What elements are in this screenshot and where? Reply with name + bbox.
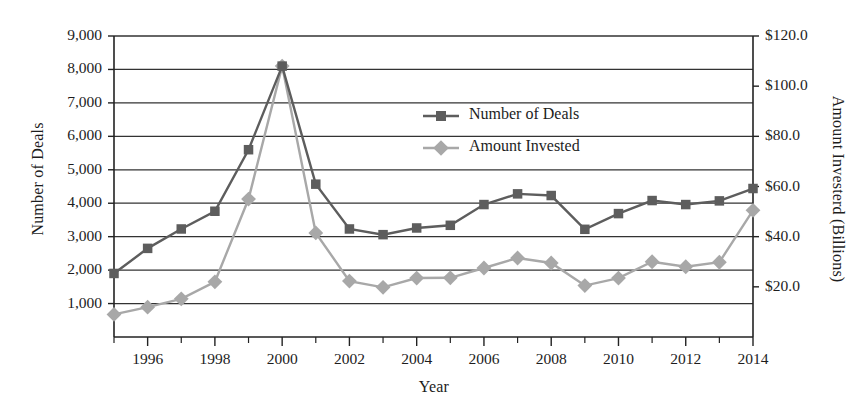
data-point-marker [645,254,660,269]
series-2 [107,59,761,322]
y-axis-left-tick-label: 7,000 [32,93,102,111]
y-axis-left-tick-label: 8,000 [32,59,102,77]
y-axis-left-tick-label: 4,000 [32,193,102,211]
y-axis-left-tick-label: 3,000 [32,227,102,245]
y-axis-left-tick-label: 1,000 [32,294,102,312]
x-axis-tick-label: 2006 [454,350,514,368]
data-point-marker [177,224,187,234]
data-point-marker [412,223,422,233]
data-point-marker [140,300,155,315]
x-axis-tick-label: 2002 [319,350,379,368]
data-series-layer [107,59,761,322]
data-point-marker [681,200,691,210]
x-axis-tick-label: 2004 [387,350,447,368]
data-point-marker [647,196,657,206]
data-point-marker [544,256,559,271]
data-point-marker [479,200,489,210]
chart-container: Number of Deals Amount Investerd (Billio… [0,0,868,415]
y-axis-right-tick-label: $80.0 [765,126,845,144]
data-point-marker [678,259,693,274]
data-point-marker [109,269,119,279]
legend-marker [436,111,446,121]
data-point-marker [342,274,357,289]
data-point-marker [546,191,556,201]
data-point-marker [244,145,254,155]
y-axis-right-tick-label: $40.0 [765,227,845,245]
data-point-marker [712,255,727,270]
data-point-marker [207,274,222,289]
data-point-marker [611,271,626,286]
data-point-marker [311,179,321,189]
x-axis-tick-label: 2008 [521,350,581,368]
x-axis-tick-label: 2012 [656,350,716,368]
data-point-marker [143,244,153,254]
data-point-marker [513,189,523,199]
y-axis-right-tick-label: $120.0 [765,26,845,44]
legend-item [423,140,459,156]
y-axis-left-tick-label: 6,000 [32,126,102,144]
data-point-marker [614,209,624,219]
y-axis-left-tick-label: 9,000 [32,26,102,44]
y-axis-right-tick-label: $100.0 [765,76,845,94]
y-axis-right-tick-label: $20.0 [765,277,845,295]
data-point-marker [277,61,287,71]
data-point-marker [446,221,456,231]
data-point-marker [580,225,590,235]
legend-label: Amount Invested [469,137,580,155]
data-point-marker [376,280,391,295]
data-point-marker [443,270,458,285]
data-point-marker [748,184,758,194]
legend-label: Number of Deals [469,105,579,123]
data-point-marker [510,251,525,266]
data-point-marker [107,307,122,322]
data-point-marker [241,192,256,207]
y-axis-right-tick-label: $60.0 [765,177,845,195]
data-point-marker [409,271,424,286]
data-point-marker [210,206,220,216]
data-point-marker [345,224,355,234]
x-axis-tick-label: 2014 [723,350,783,368]
y-axis-left-tick-label: 5,000 [32,160,102,178]
data-point-marker [715,196,725,206]
data-point-marker [577,278,592,293]
data-point-marker [378,230,388,240]
legend-marker [433,140,449,156]
data-point-marker [308,225,323,240]
legend-item [423,111,459,121]
x-axis-tick-label: 2010 [588,350,648,368]
x-axis-tick-label: 1998 [185,350,245,368]
x-axis-tick-label: 1996 [118,350,178,368]
x-axis-tick-label: 2000 [252,350,312,368]
axis-ticks [108,36,759,346]
y-axis-left-tick-label: 2,000 [32,260,102,278]
chart-legend [423,111,459,156]
data-point-marker [746,203,761,218]
axis-lines [114,36,753,337]
data-point-marker [477,261,492,276]
